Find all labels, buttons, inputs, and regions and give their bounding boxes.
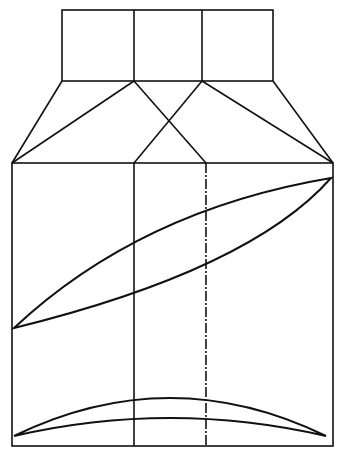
top-box [62,10,273,81]
upper-lens-outline [14,178,331,328]
projection-line-b [12,81,134,163]
projection-line-left [12,81,62,163]
facies-diagram [0,0,344,456]
lower-lens-outline [14,398,326,436]
bottom-box [12,163,333,446]
projection-line-right [273,81,333,163]
projection-line-g [202,81,333,163]
outline-lines [12,10,333,446]
